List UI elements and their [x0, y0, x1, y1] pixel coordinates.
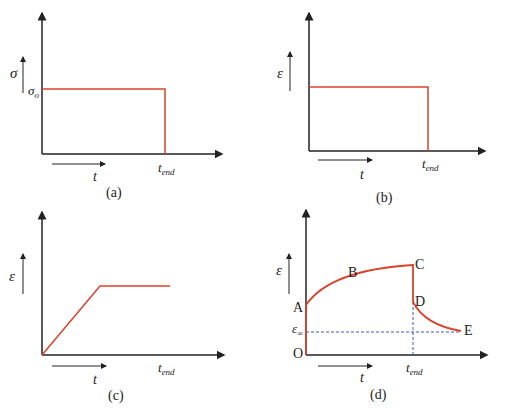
tend-label: tend [158, 160, 175, 177]
caption: (d) [370, 387, 387, 403]
y-label: σ [10, 65, 18, 81]
stress-curve [42, 89, 165, 154]
tend-label: tend [406, 360, 423, 377]
tend-label: tend [422, 156, 439, 173]
panel-c: ε t tend (c) [9, 212, 224, 404]
y-label: ε [9, 268, 15, 284]
creep-diagram: σ σo t tend (a) ε t tend (b) ε t tend (c… [0, 0, 513, 410]
caption: (b) [376, 190, 393, 206]
point-B: B [348, 265, 357, 280]
tend-label: tend [158, 360, 175, 377]
strain-curve [42, 286, 170, 355]
y-label: ε [276, 262, 282, 278]
point-A: A [293, 300, 304, 315]
panel-b: ε t tend (b) [277, 13, 485, 206]
creep-recovery-curve [306, 265, 461, 355]
x-arrow-label: t [360, 370, 365, 385]
x-arrow-label: t [93, 372, 98, 387]
x-arrow-label: t [360, 167, 365, 182]
caption: (a) [106, 185, 122, 201]
strain-curve [309, 87, 428, 151]
caption: (c) [108, 388, 124, 404]
eps-inf-label: ε∞ [292, 321, 303, 338]
panel-a: σ σo t tend (a) [10, 13, 222, 201]
point-D: D [415, 294, 425, 309]
point-O: O [293, 346, 303, 361]
point-E: E [464, 323, 473, 338]
x-arrow-label: t [93, 169, 98, 184]
point-C: C [415, 257, 424, 272]
level-label: σo [28, 83, 39, 100]
y-label: ε [277, 65, 283, 81]
panel-d: ε O A B C D E ε∞ t tend (d) [276, 210, 487, 403]
